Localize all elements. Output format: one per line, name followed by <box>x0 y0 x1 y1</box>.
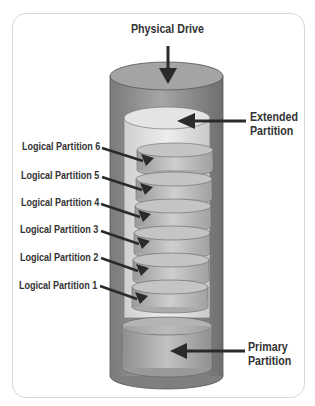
logical-partition-4-label: Logical Partition 4 <box>21 196 99 209</box>
primary-partition-label-line2: Partition <box>248 354 291 367</box>
physical-drive-label: Physical Drive <box>131 22 204 35</box>
extended-partition-label-line2: Partition <box>250 124 293 137</box>
logical-partition-3-label: Logical Partition 3 <box>20 223 98 236</box>
logical-partition-2-label: Logical Partition 2 <box>20 251 98 264</box>
primary-partition-cylinder <box>122 317 212 377</box>
logical-partition-disks <box>132 143 213 313</box>
logical-partition-6-label: Logical Partition 6 <box>22 140 100 153</box>
logical-partition-1-label: Logical Partition 1 <box>19 279 97 292</box>
extended-partition-label-line1: Extended <box>250 110 298 123</box>
primary-partition-label-line1: Primary <box>248 340 288 353</box>
logical-partition-5-label: Logical Partition 5 <box>21 169 99 182</box>
